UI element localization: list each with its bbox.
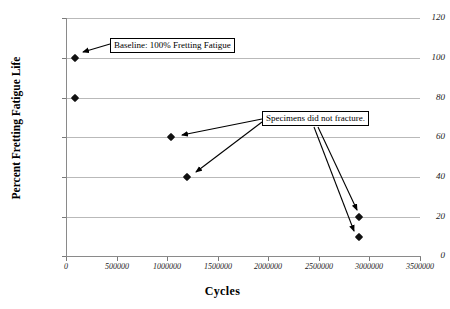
x-axis-title: Cycles [0, 284, 445, 299]
gridline-100 [66, 58, 420, 59]
y-tick-mark-20 [62, 217, 66, 218]
data-point [355, 213, 363, 221]
y-tick-label-60: 60 [389, 132, 445, 141]
data-point [71, 94, 79, 102]
y-axis-line [66, 18, 67, 257]
x-tick-mark-1500000 [218, 257, 219, 261]
y-tick-mark-100 [62, 58, 66, 59]
data-point [355, 233, 363, 241]
y-tick-label-20: 20 [389, 212, 445, 221]
x-tick-mark-3500000 [420, 257, 421, 261]
data-point [183, 173, 191, 181]
gridline-120 [66, 18, 420, 19]
y-tick-mark-120 [62, 18, 66, 19]
y-tick-label-80: 80 [389, 93, 445, 102]
gridline-80 [66, 98, 420, 99]
gridline-40 [66, 177, 420, 178]
y-tick-label-120: 120 [389, 13, 445, 22]
x-tick-mark-2500000 [319, 257, 320, 261]
x-tick-mark-2000000 [268, 257, 269, 261]
baseline-callout: Baseline: 100% Fretting Fatigue [110, 38, 235, 53]
x-axis-line [66, 256, 421, 257]
x-tick-mark-1000000 [167, 257, 168, 261]
x-tick-mark-3000000 [369, 257, 370, 261]
x-tick-mark-0 [66, 257, 67, 261]
y-axis-title: Percent Fretting Fatigue Life [10, 28, 22, 228]
data-point [167, 133, 175, 141]
gridline-60 [66, 137, 420, 138]
gridline-20 [66, 217, 420, 218]
y-tick-mark-40 [62, 177, 66, 178]
y-tick-mark-80 [62, 98, 66, 99]
data-point [71, 54, 79, 62]
y-tick-label-100: 100 [389, 53, 445, 62]
x-tick-mark-500000 [117, 257, 118, 261]
y-tick-label-40: 40 [389, 172, 445, 181]
no-fracture-callout: Specimens did not fracture. [262, 111, 369, 126]
x-tick-label-3500000: 3500000 [385, 262, 450, 271]
y-tick-label-0: 0 [389, 251, 445, 260]
y-tick-mark-60 [62, 137, 66, 138]
